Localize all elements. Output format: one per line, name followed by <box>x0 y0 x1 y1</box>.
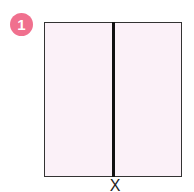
bottom-label: X <box>104 178 126 192</box>
step-number-badge: 1 <box>10 13 33 36</box>
vertical-divider-line <box>112 22 115 177</box>
